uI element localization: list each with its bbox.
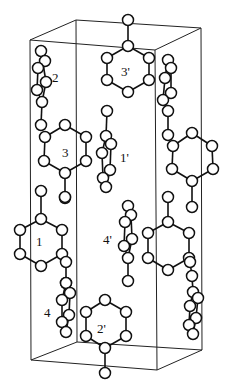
atom — [102, 75, 113, 86]
atom — [121, 331, 132, 342]
atom — [106, 139, 117, 150]
atom — [61, 257, 72, 268]
atom — [185, 257, 196, 268]
atom — [61, 327, 72, 338]
atom — [37, 97, 48, 108]
atom — [187, 128, 198, 139]
atom — [81, 307, 92, 318]
atom — [100, 343, 111, 354]
atom — [81, 132, 92, 143]
label-1prime: 1' — [120, 150, 129, 165]
atom — [15, 249, 26, 260]
atom — [36, 120, 47, 131]
cell-edge — [77, 342, 202, 350]
atom — [119, 241, 130, 252]
atom — [100, 295, 111, 306]
atom — [207, 141, 218, 152]
atom — [57, 225, 68, 236]
atom — [208, 164, 219, 175]
atom — [123, 87, 134, 98]
atom — [144, 53, 155, 64]
atom — [166, 63, 177, 74]
atom — [187, 202, 198, 213]
atom — [33, 63, 44, 74]
atom — [188, 329, 199, 340]
molecule-right-upper-side — [158, 55, 177, 141]
atom — [121, 307, 132, 318]
molecule-labels: 3'231'14'42' — [36, 64, 130, 336]
atom — [158, 95, 169, 106]
cell-edge — [30, 40, 155, 50]
atom — [100, 368, 111, 379]
atom — [81, 331, 92, 342]
atom — [160, 73, 171, 84]
atom — [57, 295, 68, 306]
atom — [40, 132, 51, 143]
atom — [187, 271, 198, 282]
atom — [60, 120, 71, 131]
cell-edge — [157, 350, 202, 370]
cell-edge — [30, 40, 31, 360]
atom — [163, 265, 174, 276]
atom — [120, 217, 131, 228]
atom — [163, 192, 174, 203]
atom — [36, 261, 47, 272]
atom — [163, 217, 174, 228]
atom — [143, 228, 154, 239]
atom — [60, 168, 71, 179]
atom — [143, 253, 154, 264]
label-1: 1 — [36, 234, 43, 249]
cell-edge — [155, 28, 201, 50]
cell-edge — [31, 342, 77, 360]
atom — [39, 156, 50, 167]
atom — [163, 130, 174, 141]
label-4prime: 4' — [103, 232, 112, 247]
atom — [168, 141, 179, 152]
atom — [187, 176, 198, 187]
cell-edge — [155, 50, 157, 370]
label-3: 3 — [62, 145, 69, 160]
atom — [97, 148, 108, 159]
atom — [144, 75, 155, 86]
atom — [185, 301, 196, 312]
atom — [36, 214, 47, 225]
atom — [36, 186, 47, 197]
label-4: 4 — [44, 305, 51, 320]
atom — [167, 164, 178, 175]
atom-layer — [15, 15, 219, 379]
label-2: 2 — [52, 70, 59, 85]
bond-layer — [20, 20, 213, 373]
atom — [32, 85, 43, 96]
atom — [123, 15, 134, 26]
atom — [60, 192, 71, 203]
cell-edge — [30, 20, 76, 40]
atom — [101, 182, 112, 193]
atom — [123, 41, 134, 52]
atom — [123, 253, 134, 264]
label-3prime: 3' — [121, 64, 130, 79]
atom — [163, 106, 174, 117]
cell-edge — [76, 20, 201, 28]
cell-edge — [31, 360, 157, 370]
atom — [102, 53, 113, 64]
atom — [41, 77, 52, 88]
atom — [123, 276, 134, 287]
atom — [81, 156, 92, 167]
atom — [15, 225, 26, 236]
atom — [184, 228, 195, 239]
label-2prime: 2' — [97, 321, 106, 336]
molecule-right-lower-side — [184, 257, 204, 340]
atom — [102, 106, 113, 117]
molecule-4 — [57, 278, 76, 338]
crystal-structure-diagram: 3'231'14'42' — [0, 0, 233, 390]
